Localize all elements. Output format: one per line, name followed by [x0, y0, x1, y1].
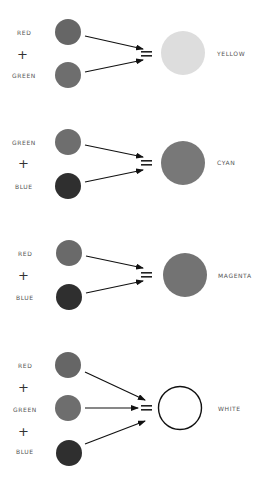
plus-sign: +	[18, 380, 29, 395]
arrow-icon	[85, 372, 145, 400]
label-green: GREEN	[12, 139, 36, 146]
red-circle	[55, 19, 81, 45]
arrow-icon	[86, 256, 143, 268]
green-circle	[55, 129, 81, 155]
blue-circle	[56, 440, 82, 466]
equation-white: RED + GREEN + BLUE WHITE	[13, 352, 241, 466]
blue-circle	[55, 173, 81, 199]
red-circle	[55, 352, 81, 378]
red-circle	[56, 240, 82, 266]
equation-yellow: RED + GREEN YELLOW	[12, 19, 245, 88]
cyan-result-circle	[161, 141, 205, 185]
green-circle	[55, 62, 81, 88]
green-circle	[55, 395, 81, 421]
label-magenta: MAGENTA	[218, 272, 252, 279]
label-red: RED	[18, 362, 32, 369]
arrow-icon	[86, 281, 143, 293]
equals-sign	[141, 272, 152, 278]
equals-sign	[141, 405, 152, 411]
plus-sign: +	[18, 424, 29, 439]
label-green: GREEN	[13, 406, 37, 413]
label-blue: BLUE	[16, 294, 34, 301]
plus-sign: +	[18, 156, 29, 171]
label-red: RED	[18, 250, 32, 257]
equation-magenta: RED + BLUE MAGENTA	[16, 240, 252, 310]
label-cyan: CYAN	[217, 159, 235, 166]
equals-sign	[141, 160, 152, 166]
label-blue: BLUE	[15, 183, 33, 190]
white-result-circle	[159, 387, 202, 430]
plus-sign: +	[17, 47, 28, 62]
label-blue: BLUE	[16, 448, 34, 455]
yellow-result-circle	[161, 31, 205, 75]
arrow-icon	[85, 170, 143, 182]
label-yellow: YELLOW	[216, 50, 245, 57]
arrow-icon	[85, 145, 143, 157]
arrow-icon	[85, 36, 143, 49]
label-green: GREEN	[12, 72, 36, 79]
equals-sign	[141, 51, 152, 57]
arrow-icon	[85, 421, 145, 444]
arrow-icon	[85, 60, 143, 72]
equation-cyan: GREEN + BLUE CYAN	[12, 129, 235, 199]
blue-circle	[56, 284, 82, 310]
label-white: WHITE	[218, 405, 241, 412]
plus-sign: +	[18, 268, 29, 283]
magenta-result-circle	[163, 253, 207, 297]
label-red: RED	[17, 29, 31, 36]
color-mixing-diagram: RED + GREEN YELLOW GREEN + BLUE CYAN RED…	[0, 0, 264, 479]
